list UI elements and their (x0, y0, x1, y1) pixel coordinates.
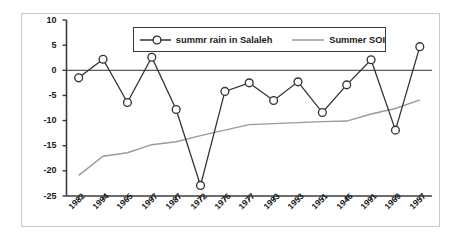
legend-label-summer-rain: summr rain in Salaleh (176, 35, 273, 45)
data-point-marker (392, 126, 400, 134)
y-tick-label: -15 (35, 141, 57, 150)
data-point-marker (367, 56, 375, 64)
y-tick-label: -20 (35, 166, 57, 175)
data-point-marker (75, 74, 83, 82)
data-point-marker (99, 55, 107, 63)
data-point-marker (172, 106, 180, 114)
y-tick-label: -25 (35, 192, 57, 201)
data-point-marker (416, 43, 424, 51)
chart-legend: summr rain in Salaleh Summer SOI (133, 27, 386, 52)
y-tick-label: 0 (35, 66, 57, 75)
data-point-marker (124, 99, 132, 107)
data-point-marker (245, 79, 253, 87)
chart-screenshot: Normalized anomalies *(10) 1050-5-10-15-… (0, 0, 457, 249)
series-markers-summer-rain (75, 43, 424, 190)
data-point-marker (294, 78, 302, 86)
y-tick-label: 10 (35, 16, 57, 25)
series-line-summer-rain (79, 47, 420, 186)
data-point-marker (318, 109, 326, 117)
legend-swatch-summer-soi (292, 34, 325, 46)
data-point-marker (343, 81, 351, 89)
y-tick-label: -5 (35, 91, 57, 100)
series-line-summer-soi (79, 100, 420, 175)
y-tick-label: -10 (35, 116, 57, 125)
data-point-marker (270, 97, 278, 105)
y-tick-label: 5 (35, 41, 57, 50)
data-point-marker (221, 88, 229, 96)
data-point-marker (148, 53, 156, 61)
legend-label-summer-soi: Summer SOI (329, 35, 385, 45)
legend-swatch-summer-rain (140, 34, 171, 46)
data-point-marker (197, 182, 205, 190)
